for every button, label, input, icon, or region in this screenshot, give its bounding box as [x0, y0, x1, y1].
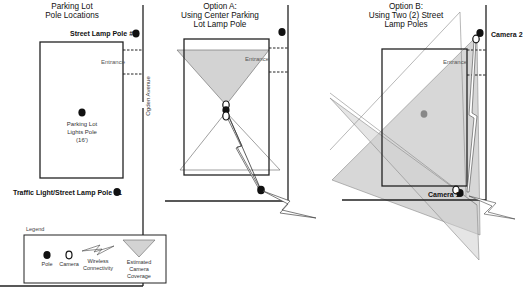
panel-option-a: Option A: Using Center Parking Lot Lamp …	[165, 2, 316, 218]
legend-label-camera: Camera	[59, 261, 80, 267]
panel3-title-line2: Using Two (2) Street	[369, 11, 444, 20]
legend-label-coverage-2: Camera	[129, 266, 150, 272]
legend-label-pole: Pole	[41, 261, 52, 267]
panel1-title-line1: Parking Lot	[51, 2, 93, 11]
pole1-label: Traffic Light/Street Lamp Pole #1	[13, 189, 122, 197]
pole-icon	[278, 28, 285, 36]
entrance-label: Entrance	[101, 59, 126, 65]
panel-option-b: Option B: Using Two (2) Street Lamp Pole…	[330, 2, 523, 260]
street-name-label: Ogden Avenue	[145, 76, 151, 116]
entrance-label: Entrance	[245, 56, 270, 62]
pole-icon	[421, 110, 428, 118]
panel3-title-line3: Lamp Poles	[384, 20, 427, 29]
camera-icon	[223, 112, 229, 120]
panel2-title-line1: Option A:	[203, 2, 237, 11]
camera2-label: Camera 2	[491, 31, 523, 38]
entrance-label: Entrance	[443, 59, 468, 65]
panel2-title-line3: Lot Lamp Pole	[194, 20, 247, 29]
panel2-title-line2: Using Center Parking	[181, 11, 259, 20]
pole-icon	[78, 109, 85, 117]
legend-label-wireless-1: Wireless	[87, 258, 108, 264]
camera-icon	[66, 251, 72, 259]
legend-label-coverage-3: Coverage	[127, 273, 151, 279]
center-pole-label-line1: Parking Lot	[67, 121, 98, 127]
pole2-label: Street Lamp Pole #2	[70, 30, 137, 38]
diagram-canvas: Parking Lot Pole Locations Entrance Stre…	[0, 0, 523, 289]
legend: Legend Pole Camera Wireless Connectivity…	[24, 226, 166, 283]
legend-label-coverage-1: Estimated	[127, 259, 151, 265]
pole-icon	[43, 251, 50, 259]
pole-icon	[132, 30, 139, 38]
legend-title: Legend	[26, 226, 44, 232]
camera-icon	[473, 35, 479, 43]
camera1-label: Camera 1	[428, 191, 460, 198]
center-pole-label-line2: Lights Pole	[67, 129, 97, 135]
legend-label-wireless-2: Connectivity	[83, 265, 113, 271]
wireless-link	[263, 191, 316, 218]
center-pole-label-line3: (16')	[76, 137, 88, 143]
pole-icon	[257, 186, 265, 194]
panel3-title-line1: Option B:	[389, 2, 423, 11]
pole-icon	[113, 188, 120, 196]
panel1-title-line2: Pole Locations	[45, 11, 99, 20]
